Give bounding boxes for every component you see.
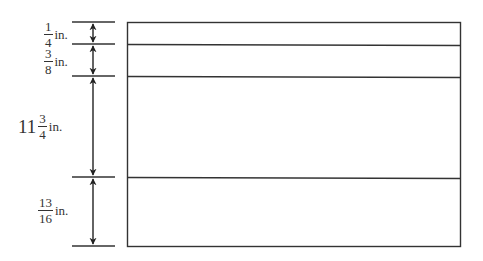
fraction: 1 4 [44,20,53,49]
fraction: 3 4 [38,112,47,141]
denominator: 8 [45,62,52,76]
label-layer-4: 13 16 in. [38,196,68,225]
unit: in. [55,203,68,219]
label-layer-2: 3 8 in. [44,47,68,76]
numerator: 1 [44,20,53,35]
fraction: 13 16 [38,196,53,225]
denominator: 16 [39,211,52,225]
unit: in. [49,119,62,135]
layer-divider-1 [128,45,461,46]
numerator: 3 [44,47,53,62]
dimension-drawing [0,0,483,261]
layer-divider-2 [128,77,461,78]
numerator: 3 [38,112,47,127]
block-outline [128,23,461,247]
layered-block [128,23,461,247]
unit: in. [55,27,68,43]
layer-divider-3 [128,178,461,179]
denominator: 4 [39,127,46,141]
fraction: 3 8 [44,47,53,76]
numerator: 13 [38,196,53,211]
label-layer-3: 11 3 4 in. [18,112,62,141]
whole-number: 11 [18,116,36,138]
label-layer-1: 1 4 in. [44,20,68,49]
unit: in. [55,54,68,70]
